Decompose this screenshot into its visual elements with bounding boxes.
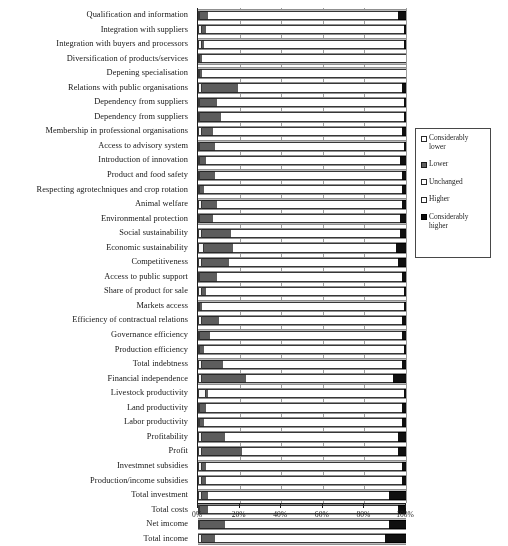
bar-segment bbox=[287, 214, 399, 223]
category-label: Respecting agrotechniques and crop rotat… bbox=[0, 183, 192, 198]
category-label: Profitability bbox=[0, 430, 192, 445]
bar-row bbox=[198, 430, 406, 445]
legend-item: Unchanged bbox=[421, 178, 486, 187]
bar-segment bbox=[200, 331, 210, 340]
bar-segment bbox=[354, 112, 404, 121]
x-axis-tick bbox=[197, 503, 198, 508]
x-axis-tick-label: 60% bbox=[315, 510, 329, 519]
bar-segment bbox=[304, 389, 404, 398]
bar-segment bbox=[200, 214, 212, 223]
bar-segment bbox=[312, 200, 401, 209]
bar-segment bbox=[204, 345, 279, 354]
stacked-bar bbox=[198, 25, 406, 34]
bar-segment bbox=[206, 462, 364, 471]
bar-series-container bbox=[198, 8, 406, 503]
bar-segment bbox=[325, 40, 404, 49]
legend-item: Lower bbox=[421, 160, 486, 169]
x-axis-tick-label: 80% bbox=[356, 510, 370, 519]
bar-row bbox=[198, 241, 406, 256]
bar-segment bbox=[302, 432, 398, 441]
stacked-bar bbox=[198, 447, 406, 456]
bar-row bbox=[198, 444, 406, 459]
category-label: Qualification and information bbox=[0, 8, 192, 23]
category-label: Depening specialisation bbox=[0, 66, 192, 81]
bar-segment bbox=[208, 389, 304, 398]
bar-segment bbox=[217, 272, 294, 281]
bar-segment bbox=[198, 389, 206, 398]
bar-segment bbox=[200, 142, 215, 151]
bar-row bbox=[198, 81, 406, 96]
stacked-bar bbox=[198, 214, 406, 223]
legend-item: Higher bbox=[421, 195, 486, 204]
x-axis-tick-labels: 0%20%40%60%80%100% bbox=[0, 510, 508, 524]
bar-row bbox=[198, 284, 406, 299]
bar-segment bbox=[202, 83, 237, 92]
stacked-bar bbox=[198, 272, 406, 281]
bar-segment bbox=[206, 25, 314, 34]
category-label: Social sustainability bbox=[0, 226, 192, 241]
bar-segment bbox=[385, 534, 406, 543]
stacked-bar bbox=[198, 40, 406, 49]
stacked-bar bbox=[198, 462, 406, 471]
stacked-bar bbox=[198, 171, 406, 180]
bar-segment bbox=[215, 142, 329, 151]
category-label: Livestock productivity bbox=[0, 386, 192, 401]
stacked-bar bbox=[198, 432, 406, 441]
bar-segment bbox=[402, 185, 406, 194]
bar-segment bbox=[402, 272, 406, 281]
bar-segment bbox=[202, 69, 406, 78]
bar-segment bbox=[404, 40, 406, 49]
bar-segment bbox=[279, 403, 402, 412]
bar-segment bbox=[402, 418, 406, 427]
stacked-bar bbox=[198, 156, 406, 165]
bar-segment bbox=[402, 476, 406, 485]
stacked-bar bbox=[198, 200, 406, 209]
bar-row bbox=[198, 153, 406, 168]
category-label: Access to advisory system bbox=[0, 139, 192, 154]
bar-segment bbox=[402, 83, 406, 92]
bar-segment bbox=[294, 272, 402, 281]
bar-row bbox=[198, 212, 406, 227]
bar-segment bbox=[238, 83, 336, 92]
bar-segment bbox=[208, 491, 283, 500]
bar-segment bbox=[202, 447, 242, 456]
stacked-bar bbox=[198, 98, 406, 107]
bar-row bbox=[198, 110, 406, 125]
bar-segment bbox=[398, 258, 406, 267]
bar-row bbox=[198, 357, 406, 372]
bar-segment bbox=[402, 331, 406, 340]
stacked-bar bbox=[198, 142, 406, 151]
bar-segment bbox=[233, 243, 327, 252]
bar-segment bbox=[283, 491, 389, 500]
bar-segment bbox=[215, 534, 284, 543]
legend-swatch-icon bbox=[421, 214, 427, 220]
bar-segment bbox=[202, 200, 217, 209]
bar-segment bbox=[208, 11, 283, 20]
category-label: Dependency from suppliers bbox=[0, 110, 192, 125]
legend-item: Considerably lower bbox=[421, 134, 486, 151]
bar-segment bbox=[231, 229, 318, 238]
bar-row bbox=[198, 255, 406, 270]
bar-segment bbox=[402, 171, 406, 180]
stacked-bar bbox=[198, 302, 406, 311]
bar-row bbox=[198, 459, 406, 474]
legend-item: Considerably higher bbox=[421, 213, 486, 230]
chart-legend: Considerably lowerLowerUnchangedHigherCo… bbox=[415, 128, 491, 258]
bar-segment bbox=[202, 316, 219, 325]
category-label: Introduction of innovation bbox=[0, 153, 192, 168]
bar-segment bbox=[360, 476, 402, 485]
bar-segment bbox=[200, 98, 217, 107]
bar-segment bbox=[202, 302, 254, 311]
bar-row bbox=[198, 95, 406, 110]
bar-segment bbox=[404, 98, 406, 107]
bar-segment bbox=[398, 11, 406, 20]
bar-segment bbox=[285, 156, 399, 165]
bar-segment bbox=[206, 403, 279, 412]
stacked-bar bbox=[198, 403, 406, 412]
bar-segment bbox=[254, 302, 404, 311]
bar-row bbox=[198, 328, 406, 343]
bar-segment bbox=[202, 127, 212, 136]
category-label: Diversification of products/services bbox=[0, 52, 192, 67]
bar-segment bbox=[404, 112, 406, 121]
x-axis-tick bbox=[363, 503, 364, 508]
